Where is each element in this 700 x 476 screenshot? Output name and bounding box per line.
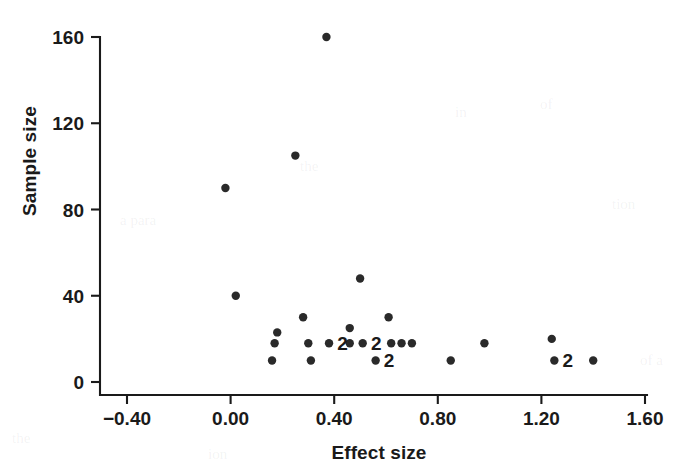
data-point bbox=[291, 151, 299, 159]
x-tick-label: 0.40 bbox=[316, 408, 353, 429]
data-point bbox=[299, 313, 307, 321]
data-point bbox=[371, 356, 379, 364]
data-points bbox=[221, 33, 597, 365]
data-point bbox=[304, 339, 312, 347]
data-point bbox=[356, 274, 364, 282]
data-point bbox=[307, 356, 315, 364]
overlap-count-labels: 2222 bbox=[337, 333, 573, 371]
overlap-count-label: 2 bbox=[384, 350, 395, 371]
data-point bbox=[548, 335, 556, 343]
data-point bbox=[408, 339, 416, 347]
data-point bbox=[397, 339, 405, 347]
scatter-plot-figure: Sample size Effect size 04080120160−0.40… bbox=[0, 0, 700, 476]
data-point bbox=[480, 339, 488, 347]
y-tick-label: 160 bbox=[52, 27, 84, 48]
data-point bbox=[221, 184, 229, 192]
data-point bbox=[325, 339, 333, 347]
x-tick-label: 0.80 bbox=[419, 408, 456, 429]
overlap-count-label: 2 bbox=[371, 333, 382, 354]
data-point bbox=[273, 328, 281, 336]
x-tick-label: −0.40 bbox=[103, 408, 151, 429]
x-tick-label: 0.00 bbox=[212, 408, 249, 429]
data-point bbox=[232, 292, 240, 300]
data-point bbox=[358, 339, 366, 347]
data-point bbox=[270, 339, 278, 347]
data-point bbox=[387, 339, 395, 347]
x-tick-label: 1.60 bbox=[627, 408, 664, 429]
data-point bbox=[550, 356, 558, 364]
data-point bbox=[268, 356, 276, 364]
data-point bbox=[346, 324, 354, 332]
x-tick-label: 1.20 bbox=[523, 408, 560, 429]
y-tick-label: 120 bbox=[52, 113, 84, 134]
data-point bbox=[447, 356, 455, 364]
y-tick-label: 40 bbox=[63, 286, 84, 307]
data-point bbox=[384, 313, 392, 321]
plot-area: 04080120160−0.400.000.400.801.201.60 222… bbox=[0, 0, 700, 476]
overlap-count-label: 2 bbox=[563, 350, 574, 371]
y-tick-label: 0 bbox=[73, 372, 84, 393]
tick-marks bbox=[91, 37, 645, 404]
y-tick-label: 80 bbox=[63, 200, 84, 221]
data-point bbox=[322, 33, 330, 41]
overlap-count-label: 2 bbox=[337, 333, 348, 354]
data-point bbox=[589, 356, 597, 364]
